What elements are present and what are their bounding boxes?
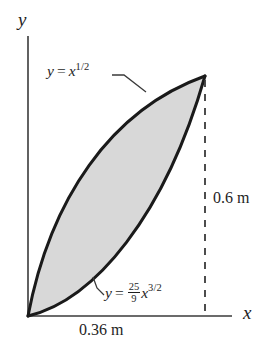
lower-eq-coefficient-fraction: 259 (128, 281, 141, 304)
fraction-numerator: 25 (128, 281, 141, 293)
upper-eq-exponent: 1/2 (76, 61, 90, 72)
figure-graphic (0, 0, 275, 358)
figure-container: y x y=x1/2 y=259x3/2 0.6 m 0.36 m (0, 0, 275, 358)
lower-eq-y: y (105, 284, 112, 301)
width-dimension-label: 0.36 m (79, 322, 123, 338)
upper-eq-y: y (47, 62, 54, 79)
shaded-region (28, 76, 205, 316)
upper-label-leader-line (112, 75, 146, 92)
lower-label-leader-line (93, 277, 104, 295)
lower-eq-base: x (141, 284, 148, 301)
lower-eq-equals: = (112, 284, 127, 301)
upper-curve-equation-label: y=x1/2 (47, 62, 90, 79)
lower-eq-exponent: 3/2 (148, 282, 162, 293)
upper-eq-base: x (69, 62, 76, 79)
upper-eq-equals: = (54, 62, 69, 79)
height-dimension-label: 0.6 m (213, 190, 249, 206)
fraction-denominator: 9 (128, 293, 141, 304)
x-axis-label: x (243, 303, 251, 322)
lower-curve-equation-label: y=259x3/2 (105, 281, 162, 304)
y-axis-label: y (18, 10, 26, 29)
